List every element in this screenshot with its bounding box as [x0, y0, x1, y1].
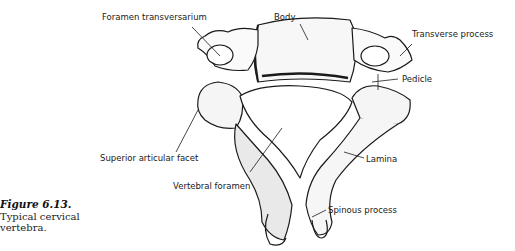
right-foramen-transversarium [361, 46, 389, 66]
label-lamina: Lamina [366, 154, 397, 164]
figure-number: Figure 6.13. [0, 198, 72, 210]
figure-caption: Typical cervical vertebra. [0, 211, 110, 233]
label-body: Body [274, 12, 295, 22]
label-vertebral-foramen: Vertebral foramen [173, 181, 250, 191]
label-transverse-process: Transverse process [412, 29, 493, 39]
label-superior-articular-facet: Superior articular facet [100, 153, 198, 163]
label-spinous-process: Spinous process [328, 205, 397, 215]
label-pedicle: Pedicle [402, 74, 432, 84]
left-articular-facet [198, 82, 243, 128]
label-foramen-transversarium: Foramen transversarium [102, 12, 207, 22]
left-foramen-transversarium [207, 45, 233, 65]
